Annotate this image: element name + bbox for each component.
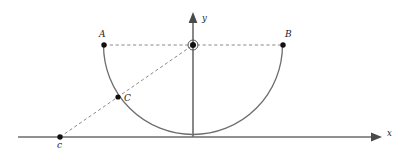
point-a-marker xyxy=(101,42,106,47)
label-point-a: A xyxy=(99,30,106,39)
dashed-secant-c-center xyxy=(60,45,193,137)
y-axis-arrowhead xyxy=(189,12,198,23)
label-point-c-lower: c xyxy=(57,141,62,150)
point-c-upper-marker xyxy=(115,94,120,99)
point-c-lower-marker xyxy=(57,134,62,139)
label-y-axis: y xyxy=(202,14,207,23)
x-axis-arrowhead xyxy=(371,133,382,142)
diagram-canvas xyxy=(0,0,400,156)
label-point-b: B xyxy=(285,30,292,39)
center-point-marker xyxy=(190,42,196,48)
label-point-c-upper: C xyxy=(124,94,131,103)
point-b-marker xyxy=(280,42,285,47)
label-x-axis: x xyxy=(387,129,392,138)
geometry-diagram: A B C c y x xyxy=(0,0,400,156)
